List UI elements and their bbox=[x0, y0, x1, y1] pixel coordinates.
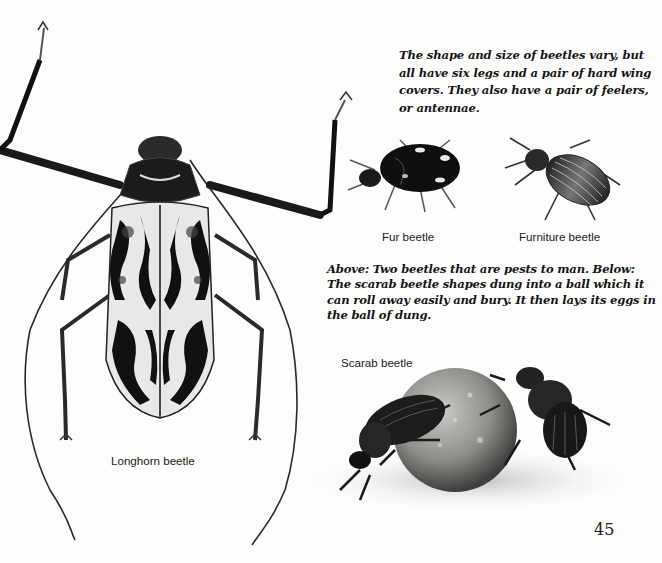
scarab-beetle-illustration bbox=[310, 367, 630, 510]
pests-paragraph: Above: Two beetles that are pests to man… bbox=[327, 262, 662, 323]
furniture-beetle-caption: Furniture beetle bbox=[519, 230, 600, 243]
scarab-beetle-caption: Scarab beetle bbox=[341, 356, 413, 369]
longhorn-beetle-caption: Longhorn beetle bbox=[111, 454, 195, 467]
fur-beetle-illustration bbox=[348, 140, 460, 212]
fur-beetle-caption: Fur beetle bbox=[382, 230, 434, 243]
intro-paragraph: The shape and size of beetles vary, but … bbox=[399, 47, 661, 117]
book-page: The shape and size of beetles vary, but … bbox=[0, 0, 662, 563]
furniture-beetle-illustration bbox=[505, 138, 620, 220]
page-number: 45 bbox=[594, 520, 614, 539]
